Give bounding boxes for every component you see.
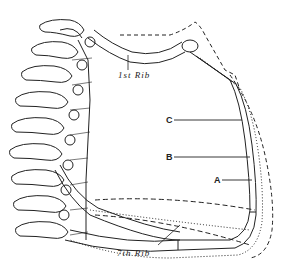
anatomical-diagram: 1st Rib C B A 7th Rib xyxy=(0,0,287,271)
rib-outline-c xyxy=(230,75,273,258)
seventh-rib xyxy=(55,165,180,245)
position-a-label: A xyxy=(214,176,221,185)
first-rib xyxy=(88,30,198,70)
position-c-label: C xyxy=(166,116,173,125)
position-b-label: B xyxy=(166,153,173,162)
rib-cage-outline-a xyxy=(65,52,256,251)
seventh-rib-label: 7th Rib xyxy=(117,249,150,258)
rib-drawing xyxy=(0,0,287,271)
first-rib-label: 1st Rib xyxy=(118,71,150,80)
vertebral-column xyxy=(10,20,96,240)
